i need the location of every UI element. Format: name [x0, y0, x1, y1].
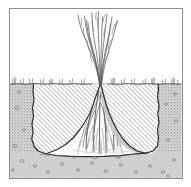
root-system-figure [0, 0, 191, 187]
figure-canvas [0, 0, 191, 187]
